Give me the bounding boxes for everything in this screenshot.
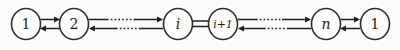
- edge-iplus1-to-n-arrowhead: [305, 17, 311, 23]
- node-n[interactable]: n: [312, 9, 341, 40]
- chain-diagram: 1 2 i i+1 n 1: [0, 0, 400, 50]
- node-i[interactable]: i: [164, 9, 193, 40]
- edge-n-to-iplus1-arrowhead: [238, 26, 244, 32]
- node-1-first-label: 1: [22, 16, 31, 32]
- node-2[interactable]: 2: [60, 9, 89, 40]
- node-i-label: i: [176, 16, 180, 32]
- edge-i-to-iplus1-double-line: [192, 21, 209, 27]
- edge-n-to-iplus1-left-arrow: [238, 26, 311, 32]
- edge-n-to-1-right-arrow: [341, 17, 360, 23]
- node-i-plus-1[interactable]: i+1: [209, 9, 238, 40]
- diagram-canvas: 1 2 i i+1 n 1: [0, 0, 400, 50]
- edge-1-to-2-right-arrow: [41, 17, 60, 23]
- node-2-label: 2: [70, 16, 79, 32]
- edge-2-to-i-arrowhead: [157, 17, 163, 23]
- node-n-label: n: [321, 16, 330, 32]
- edge-2-to-i-right-arrow: [89, 17, 163, 23]
- edge-2-to-1-left-arrow: [40, 26, 60, 32]
- node-i-plus-1-label: i+1: [213, 18, 233, 31]
- node-1-last[interactable]: 1: [361, 9, 390, 40]
- edge-pair-2-i: [89, 17, 163, 32]
- edge-pair-iplus1-n: [238, 17, 311, 32]
- edge-pair-n-1: [340, 17, 360, 32]
- edge-i-to-2-arrowhead: [89, 26, 95, 32]
- edge-pair-1-2: [40, 17, 60, 32]
- edge-1-to-n-left-arrow: [340, 26, 360, 32]
- edge-i-to-2-left-arrow: [89, 26, 163, 32]
- node-1-last-label: 1: [371, 16, 380, 32]
- edge-iplus1-to-n-right-arrow: [238, 17, 311, 23]
- node-1-first[interactable]: 1: [12, 9, 41, 40]
- edge-n-to-1-arrowhead: [354, 17, 360, 23]
